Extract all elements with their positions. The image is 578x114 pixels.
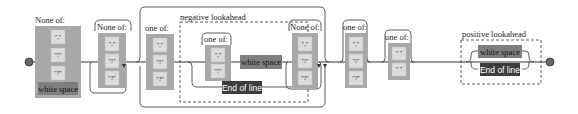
white-space-item: white space — [241, 57, 281, 67]
charset-label: one of: — [145, 23, 169, 33]
lookahead-label: positive lookahead — [462, 29, 527, 39]
end-of-line-item: End of line — [222, 83, 262, 93]
white-space-item: white space — [38, 84, 78, 94]
literal-question: "?" — [301, 75, 309, 81]
end-of-line-item: End of line — [480, 65, 520, 75]
arrow-down-icon — [323, 64, 327, 68]
literal-exclamation: "!" — [109, 58, 116, 64]
charset-one-of-7: one of: " " " " — [382, 30, 414, 80]
charset-none-of-5: None of: "," "!" "?" — [286, 20, 321, 89]
charset-none-of-2: None of: "," "!" "?" — [90, 20, 131, 93]
literal-exclamation: "!" — [353, 58, 360, 64]
literal-comma: "," — [215, 52, 222, 58]
charset-label: None of: — [97, 22, 127, 32]
end-terminal — [546, 58, 554, 66]
positive-lookahead: positive lookahead white space End of li… — [461, 29, 541, 84]
lookahead-label: negative lookahead — [180, 12, 247, 22]
charset-label: one of: — [343, 22, 367, 32]
literal-exclamation: "!" — [302, 58, 309, 64]
literal-question: "?" — [54, 70, 62, 76]
literal-exclamation: "!" — [157, 59, 164, 65]
branch-rail — [522, 51, 534, 62]
literal-question: "?" — [352, 75, 360, 81]
charset-label: one of: — [385, 32, 409, 42]
charset-one-of-3: one of: "," "!" "?" — [145, 23, 174, 90]
charset-label: None of: — [35, 15, 65, 25]
literal-comma: "," — [55, 34, 62, 40]
literal-space: " " — [396, 66, 403, 72]
charset-one-of-6: one of: "," "!" "?" — [340, 20, 370, 88]
literal-exclamation: "!" — [215, 68, 222, 74]
branch-rail — [466, 51, 478, 62]
literal-comma: "," — [302, 41, 309, 47]
charset-none-of-1: None of: "," "!" "?" white space — [35, 15, 81, 98]
literal-space: " " — [396, 50, 403, 56]
literal-question: "?" — [156, 76, 164, 82]
start-terminal — [25, 58, 33, 66]
branch-rail — [522, 62, 529, 69]
literal-exclamation: "!" — [55, 52, 62, 58]
railroad-diagram: None of: "," "!" "?" white space None of… — [0, 0, 578, 114]
literal-question: "?" — [108, 75, 116, 81]
literal-comma: "," — [353, 41, 360, 47]
literal-comma: "," — [157, 42, 164, 48]
branch-rail — [471, 62, 478, 69]
charset-label: None of: — [290, 22, 320, 32]
literal-comma: "," — [109, 41, 116, 47]
charset-label: one of: — [204, 34, 228, 44]
white-space-item: white space — [480, 47, 520, 57]
